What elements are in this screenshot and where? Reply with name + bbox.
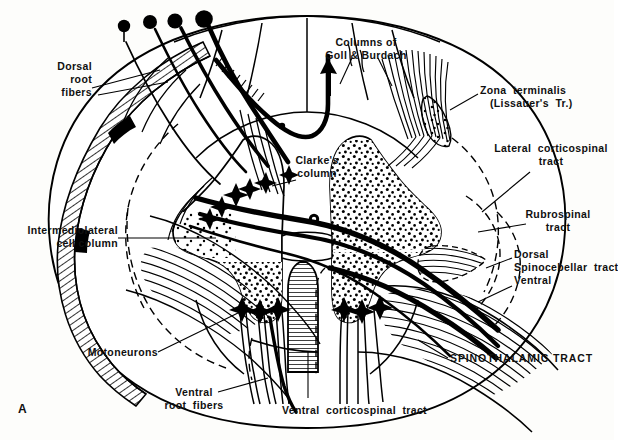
dorsal-root-ganglion-cell-3 — [167, 13, 182, 28]
ventral-median-fissure — [288, 262, 318, 372]
ascending-fiber-branch-node — [279, 123, 285, 129]
dorsal-root-ganglion-cell-2 — [143, 15, 157, 29]
dorsal-root-ganglion-cell-1 — [118, 20, 130, 32]
